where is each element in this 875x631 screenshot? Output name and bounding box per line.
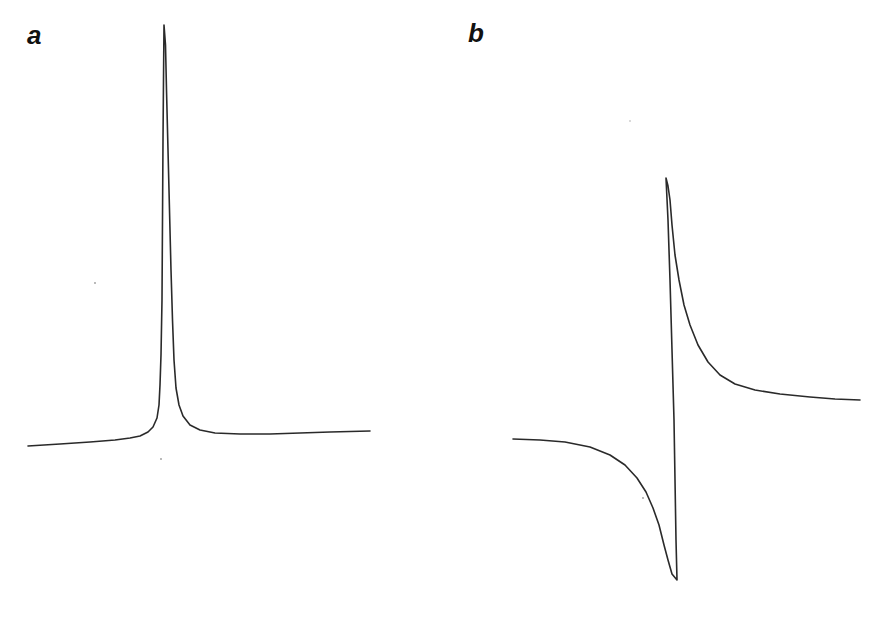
speck-dot — [642, 497, 644, 499]
speck-dot — [94, 282, 96, 284]
dispersion-trace — [513, 178, 860, 580]
absorption-trace — [28, 25, 370, 446]
panel-b-plot — [513, 178, 860, 580]
figure-canvas — [0, 0, 875, 631]
speck-dot — [160, 458, 162, 460]
panel-a-plot — [28, 25, 370, 446]
speck-dot — [629, 120, 630, 121]
